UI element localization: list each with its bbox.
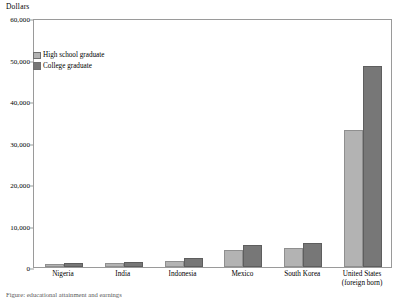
- bar-chart-figure: Dollars 60,00050,00040,00030,00020,00010…: [0, 0, 420, 298]
- bar-group: [165, 258, 203, 267]
- bar[interactable]: [64, 263, 83, 267]
- x-axis-category-label: South Korea: [284, 270, 320, 279]
- x-axis-category-label-line2: (foreign born): [342, 279, 383, 288]
- legend-swatch-icon: [33, 62, 41, 70]
- chart-legend: High school graduateCollege graduate: [33, 50, 104, 71]
- bar[interactable]: [165, 261, 184, 267]
- x-axis-category-label: India: [115, 270, 130, 279]
- x-axis-category-label-line1: Indonesia: [169, 270, 197, 278]
- bar[interactable]: [284, 248, 303, 267]
- legend-item[interactable]: College graduate: [33, 61, 104, 72]
- y-axis-title: Dollars: [6, 2, 29, 11]
- bar-group: [284, 243, 322, 267]
- x-axis-category-label: Indonesia: [169, 270, 197, 279]
- bar-group: [105, 262, 143, 267]
- legend-swatch-icon: [33, 52, 41, 60]
- bar[interactable]: [224, 250, 243, 267]
- bar[interactable]: [363, 66, 382, 267]
- x-axis-category-label-line1: United States: [343, 270, 382, 278]
- bar[interactable]: [303, 243, 322, 267]
- bar[interactable]: [184, 258, 203, 267]
- bar[interactable]: [105, 263, 124, 267]
- legend-item[interactable]: High school graduate: [33, 50, 104, 61]
- bar-group: [224, 245, 262, 267]
- x-axis-category-label-line1: India: [115, 270, 130, 278]
- bar-group: [45, 263, 83, 267]
- bar[interactable]: [45, 264, 64, 267]
- x-axis-category-label: United States(foreign born): [342, 270, 383, 288]
- x-axis-category-label: Mexico: [231, 270, 253, 279]
- bar-group: [344, 66, 382, 267]
- x-axis-category-label: Nigeria: [52, 270, 74, 279]
- bar[interactable]: [124, 262, 143, 267]
- x-axis-category-label-line1: Nigeria: [52, 270, 74, 278]
- bar[interactable]: [344, 130, 363, 267]
- x-axis-category-label-line1: South Korea: [284, 270, 320, 278]
- legend-item-label: College graduate: [43, 61, 92, 72]
- figure-footnote: Figure: educational attainment and earni…: [6, 291, 122, 298]
- x-axis-category-label-line1: Mexico: [231, 270, 253, 278]
- legend-item-label: High school graduate: [43, 50, 104, 61]
- bar[interactable]: [243, 245, 262, 267]
